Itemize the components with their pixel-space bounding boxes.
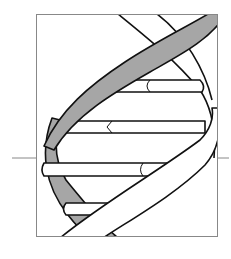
dna-illustration: DNA double helix xyxy=(0,0,231,259)
dna-helix-icon xyxy=(0,0,231,259)
base-pair-rung xyxy=(62,121,205,133)
